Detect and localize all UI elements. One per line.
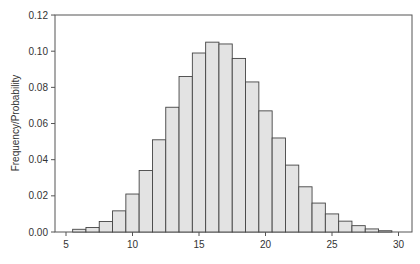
x-tick-label: 5 — [63, 239, 69, 250]
y-tick-label: 0.12 — [29, 10, 49, 21]
histogram-bar — [73, 229, 86, 232]
histogram-bar — [246, 82, 259, 232]
histogram-bar — [259, 111, 272, 232]
y-tick-label: 0.10 — [29, 46, 49, 57]
y-tick-label: 0.00 — [29, 227, 49, 238]
y-tick-label: 0.06 — [29, 118, 49, 129]
y-tick-label: 0.02 — [29, 190, 49, 201]
histogram-chart: 0.000.020.040.060.080.100.12 51015202530… — [0, 0, 420, 264]
histogram-bar — [312, 203, 325, 232]
histogram-bar — [299, 187, 312, 232]
histogram-bar — [232, 58, 245, 232]
histogram-bar — [379, 231, 392, 232]
histogram-bar — [206, 42, 219, 232]
y-axis-title: Frequency/Probability — [10, 75, 21, 172]
x-tick-label: 30 — [393, 239, 405, 250]
histogram-bar — [352, 226, 365, 232]
histogram-bar — [272, 138, 285, 232]
histogram-bar — [325, 214, 338, 232]
histogram-bar — [166, 107, 179, 232]
histogram-bar — [86, 227, 99, 232]
y-axis: 0.000.020.040.060.080.100.12 — [29, 10, 55, 238]
histogram-bar — [339, 221, 352, 232]
x-tick-label: 20 — [260, 239, 272, 250]
x-axis: 51015202530 — [63, 232, 404, 250]
histogram-bar — [192, 53, 205, 232]
histogram-bar — [179, 77, 192, 232]
histogram-bar — [219, 44, 232, 232]
x-tick-label: 25 — [326, 239, 338, 250]
histogram-bar — [285, 165, 298, 232]
y-tick-label: 0.08 — [29, 82, 49, 93]
histogram-bar — [99, 222, 112, 232]
x-tick-label: 15 — [193, 239, 205, 250]
histogram-bar — [126, 194, 139, 232]
histogram-bar — [152, 140, 165, 232]
y-tick-label: 0.04 — [29, 154, 49, 165]
histogram-bar — [113, 211, 126, 232]
histogram-bar — [139, 171, 152, 232]
x-tick-label: 10 — [127, 239, 139, 250]
histogram-bar — [365, 229, 378, 232]
